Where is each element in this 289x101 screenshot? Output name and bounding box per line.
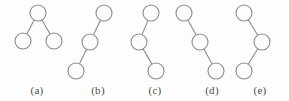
tree-edge-top-to-middle xyxy=(142,20,148,34)
caption-tree-a: (a) xyxy=(30,84,43,96)
tree-node-middle xyxy=(131,34,147,50)
tree-node-bottom xyxy=(68,63,84,79)
tree-edge-middle-to-bottom xyxy=(143,49,152,64)
tree-c xyxy=(131,5,164,79)
tree-node-bottom xyxy=(236,63,252,79)
tree-node-middle xyxy=(192,34,208,50)
tree-node-middle xyxy=(254,34,270,50)
caption-tree-d: (d) xyxy=(205,84,219,96)
caption-tree-e: (e) xyxy=(253,84,266,96)
tree-node-right-child xyxy=(46,33,62,49)
tree-edge-top-to-middle xyxy=(248,20,258,35)
tree-node-top xyxy=(96,5,112,21)
tree-edge-root-to-right-child xyxy=(42,20,50,34)
tree-node-top xyxy=(236,5,252,21)
binary-tree-figure: (a) (b) (c) (d) (e) xyxy=(0,0,289,101)
tree-edge-middle-to-bottom xyxy=(204,49,212,64)
caption-tree-b: (b) xyxy=(91,84,105,96)
tree-edge-root-to-left-child xyxy=(27,20,34,34)
tree-edge-middle-to-bottom xyxy=(79,49,86,64)
tree-node-root xyxy=(30,5,46,21)
caption-tree-c: (c) xyxy=(148,84,161,96)
tree-e xyxy=(236,5,270,79)
tree-edge-top-to-middle xyxy=(93,20,100,35)
tree-node-top xyxy=(176,5,192,21)
tree-node-left-child xyxy=(15,33,31,49)
tree-b xyxy=(68,5,112,79)
tree-d xyxy=(176,5,224,79)
tree-edge-middle-to-bottom xyxy=(248,49,258,64)
tree-node-top xyxy=(143,5,159,21)
tree-node-bottom xyxy=(148,63,164,79)
tree-node-bottom xyxy=(208,63,224,79)
tree-node-middle xyxy=(82,34,98,50)
tree-a xyxy=(15,5,62,49)
tree-edge-top-to-middle xyxy=(188,20,196,35)
